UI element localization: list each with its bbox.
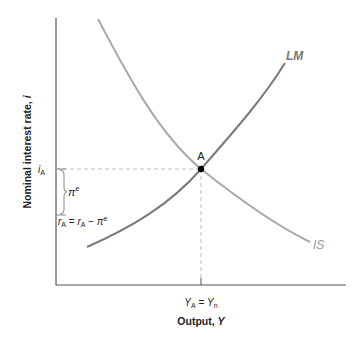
pi-e-label: πe <box>68 185 79 198</box>
is-lm-diagram: A LM IS iA πe rA = rA − πe YA = Yn Outpu… <box>0 0 360 344</box>
lm-label: LM <box>286 49 304 63</box>
equilibrium-point-A <box>198 166 204 172</box>
real-rate-equation: rA = rA − πe <box>58 215 108 228</box>
x-tick-YA-Yn: YA = Yn <box>184 297 217 309</box>
y-tick-iA: iA <box>38 164 45 176</box>
is-label: IS <box>313 238 324 252</box>
brace-icon <box>60 170 67 214</box>
x-axis-label: Output, Y <box>177 315 225 327</box>
point-label-A: A <box>197 150 205 162</box>
y-axis-label: Nominal interest rate, i <box>21 94 33 208</box>
is-curve <box>98 19 310 242</box>
